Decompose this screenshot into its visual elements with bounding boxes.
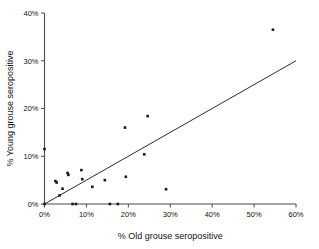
plot-canvas: 0%10%20%30%40% 0%10%20%30%40%50%60% % Ol… — [0, 0, 319, 249]
data-point — [75, 203, 78, 206]
reference-line — [45, 61, 297, 204]
data-point — [109, 203, 112, 206]
data-point — [165, 188, 168, 191]
y-tick-label: 0% — [28, 200, 39, 209]
scatter-plot-figure: 0%10%20%30%40% 0%10%20%30%40%50%60% % Ol… — [0, 0, 319, 249]
data-point — [143, 153, 146, 156]
x-tick-label: 10% — [79, 210, 94, 219]
x-axis-ticks: 0%10%20%30%40%50%60% — [39, 204, 304, 219]
fit-line-group — [45, 61, 297, 204]
x-tick-label: 60% — [288, 210, 303, 219]
y-tick-label: 20% — [23, 104, 38, 113]
data-point — [104, 179, 107, 182]
x-tick-label: 20% — [121, 210, 136, 219]
data-point — [43, 148, 46, 151]
data-points-group — [43, 28, 274, 205]
x-tick-label: 40% — [205, 210, 220, 219]
axes-group — [45, 13, 297, 204]
data-point — [124, 126, 127, 129]
data-point — [61, 187, 64, 190]
data-point — [55, 181, 58, 184]
data-point — [43, 203, 46, 206]
data-point — [91, 186, 94, 189]
data-point — [81, 178, 84, 181]
y-axis-title: % Young grouse seropositive — [5, 50, 15, 166]
y-tick-label: 30% — [23, 57, 38, 66]
data-point — [117, 203, 120, 206]
y-tick-label: 10% — [23, 152, 38, 161]
x-tick-label: 0% — [39, 210, 50, 219]
data-point — [125, 175, 128, 178]
x-axis-title: % Old grouse seropositive — [118, 231, 223, 241]
x-tick-label: 50% — [247, 210, 262, 219]
data-point — [67, 174, 70, 177]
data-point — [58, 194, 61, 197]
data-point — [80, 169, 83, 172]
data-point — [71, 203, 74, 206]
data-point — [272, 28, 275, 31]
y-tick-label: 40% — [23, 9, 38, 18]
x-tick-label: 30% — [163, 210, 178, 219]
y-axis-ticks: 0%10%20%30%40% — [23, 9, 44, 209]
data-point — [146, 115, 149, 118]
